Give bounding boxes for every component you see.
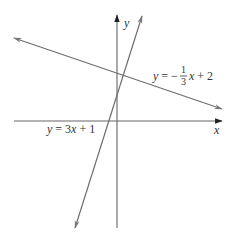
coordinate-plane: y x y = 3x + 1 y = − 1 3 x + 2: [0, 0, 234, 240]
svg-text:y = −: y = −: [152, 69, 178, 83]
rest: + 2: [194, 69, 213, 83]
fraction-denominator: 3: [181, 76, 186, 87]
shallow-line-label: y = − 1 3 x + 2: [152, 64, 213, 87]
rest: + 1: [76, 122, 95, 136]
equals: =: [52, 122, 65, 136]
steep-line-label: y = 3x + 1: [46, 122, 95, 136]
y-axis-label: y: [123, 16, 130, 30]
svg-text:x + 2: x + 2: [188, 69, 213, 83]
diagram-canvas: y x y = 3x + 1 y = − 1 3 x + 2: [0, 0, 234, 240]
equals-minus: = −: [158, 69, 178, 83]
x-axis-label: x: [213, 123, 220, 137]
fraction-numerator: 1: [181, 64, 186, 75]
